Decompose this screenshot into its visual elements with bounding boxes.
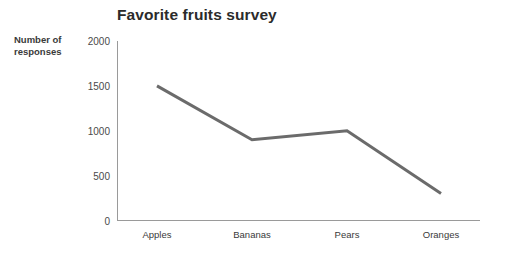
x-tick-label-apples: Apples <box>142 229 171 240</box>
x-tick-label-oranges: Oranges <box>423 229 459 240</box>
chart-page: Favorite fruits survey Number of respons… <box>0 0 505 254</box>
x-tick-label-pears: Pears <box>335 229 360 240</box>
data-series-line <box>157 86 441 194</box>
x-tick-label-bananas: Bananas <box>233 229 271 240</box>
plot-area <box>0 0 505 254</box>
